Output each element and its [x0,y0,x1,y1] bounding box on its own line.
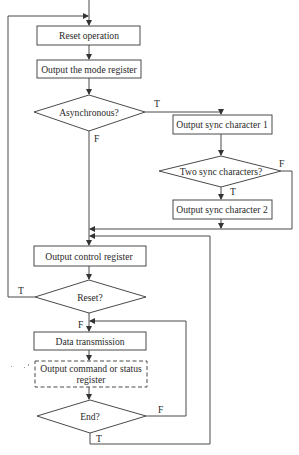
label-end-true: T [96,433,102,444]
node-label: Output sync character 1 [176,119,268,130]
node-label: Asynchronous? [59,107,119,118]
node-asynchronous-decision: Asynchronous? [34,95,145,131]
node-label: Output the mode register [41,64,137,75]
flowchart: Reset operation Output the mode register… [0,0,299,455]
node-output-mode-register: Output the mode register [37,60,141,78]
label-reset-true: T [18,285,24,296]
scan-speck [24,367,25,368]
node-label: Reset? [77,292,103,303]
node-label: Output sync character 2 [176,204,268,215]
node-data-transmission: Data transmission [34,332,146,350]
node-two-sync-characters-decision: Two sync characters? [159,156,281,187]
node-reset-decision: Reset? [35,280,146,313]
scan-speck [28,364,29,366]
label-end-false: F [158,404,163,415]
label-reset-false: F [78,319,83,330]
scan-speck [11,366,12,367]
node-label: Data transmission [55,336,124,347]
node-label: Output control register [45,251,133,262]
node-output-control-register: Output control register [34,246,146,266]
node-label-line-1: Output command or status [40,363,142,374]
node-output-command-or-status-register: Output command or status register [35,361,147,387]
node-label: Reset operation [59,30,119,41]
label-two-sync-false: F [279,158,284,169]
node-reset-operation: Reset operation [37,26,140,45]
label-two-sync-true: T [230,186,236,197]
node-output-sync-char-2: Output sync character 2 [173,200,272,219]
label-async-true: T [154,98,160,109]
node-label: Two sync characters? [180,166,262,177]
edge-async-true [145,112,221,114]
node-label-line-2: register [77,374,107,385]
node-output-sync-char-1: Output sync character 1 [173,115,272,134]
node-label: End? [80,411,100,422]
node-end-decision: End? [37,400,146,433]
label-async-false: F [94,133,99,144]
